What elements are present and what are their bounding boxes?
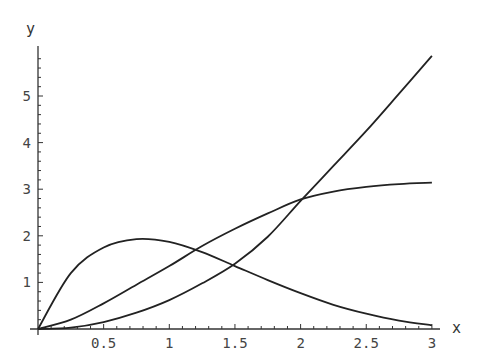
- y-tick-label: 4: [23, 135, 31, 151]
- curve-steep: [38, 56, 432, 329]
- x-tick-label: 3: [428, 335, 436, 351]
- x-axis-label: x: [452, 319, 461, 337]
- x-tick-label: 2.5: [354, 335, 379, 351]
- axes: 0.511.522.5312345: [23, 46, 440, 351]
- y-axis-label: y: [26, 20, 35, 38]
- x-tick-label: 1: [165, 335, 173, 351]
- y-tick-label: 2: [23, 228, 31, 244]
- y-tick-label: 3: [23, 181, 31, 197]
- curve-saturating: [38, 183, 432, 329]
- x-tick-label: 0.5: [91, 335, 116, 351]
- y-tick-label: 5: [23, 88, 31, 104]
- x-tick-label: 2: [296, 335, 304, 351]
- line-chart: 0.511.522.5312345 y x: [0, 0, 493, 363]
- curve-hump: [38, 239, 432, 329]
- y-tick-label: 1: [23, 274, 31, 290]
- x-tick-label: 1.5: [222, 335, 247, 351]
- curves: [38, 56, 432, 329]
